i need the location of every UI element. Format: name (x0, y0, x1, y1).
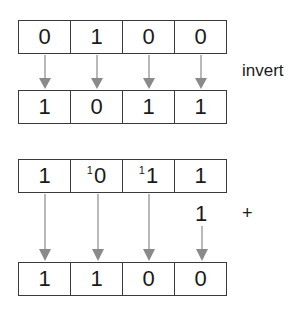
bit-cell: 11 (123, 160, 175, 192)
invert-label: invert (242, 61, 284, 81)
bit-cell: 1 (71, 263, 123, 295)
bit-cell: 1 (19, 160, 71, 192)
bit-cell: 1 (123, 91, 175, 123)
bit-cell: 1 (175, 160, 226, 192)
original-bits-row: 0 1 0 0 (18, 20, 227, 54)
bit-cell: 0 (123, 263, 175, 295)
inverted-bits-row: 1 0 1 1 (18, 90, 227, 124)
bit-cell: 0 (19, 21, 71, 53)
invert-arrows (39, 55, 207, 89)
plus-sign: + (242, 203, 253, 224)
result-bits-row: 1 1 0 0 (18, 262, 227, 296)
bit-cell: 1 (175, 91, 226, 123)
bit-cell: 10 (71, 160, 123, 192)
carry-digit: 1 (87, 165, 93, 176)
bit-cell: 0 (175, 21, 226, 53)
bit-cell: 0 (123, 21, 175, 53)
add-one-value: 1 (195, 201, 207, 227)
bit-cell: 0 (175, 263, 226, 295)
bit-cell: 0 (71, 91, 123, 123)
bit-cell: 1 (71, 21, 123, 53)
addend-bits-row: 1 10 11 1 (18, 159, 227, 193)
bit-cell: 1 (19, 91, 71, 123)
bit-cell: 1 (19, 263, 71, 295)
sum-arrows (39, 194, 208, 261)
carry-digit: 1 (139, 165, 145, 176)
